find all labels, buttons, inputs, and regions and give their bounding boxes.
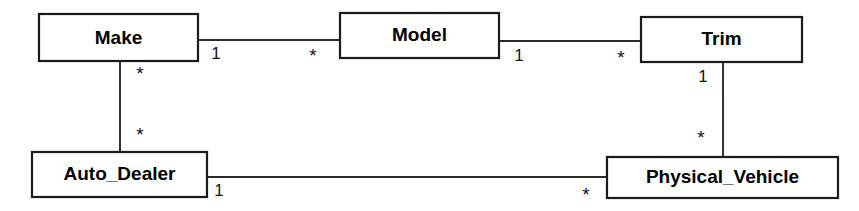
multiplicity-make-model-from: 1 [211,44,220,63]
multiplicity-model-trim-to: * [617,47,625,68]
multiplicity-auto-dealer-physical-vehicle-to: * [582,184,590,205]
entity-trim[interactable]: Trim [641,17,802,62]
multiplicity-trim-physical-vehicle-to: * [697,127,705,148]
multiplicity-make-auto-dealer-to: * [136,124,144,145]
uml-class-diagram: Make Model Trim Auto_Dealer Physical_Veh… [0,0,859,211]
entity-label-auto-dealer: Auto_Dealer [64,163,177,184]
multiplicity-trim-physical-vehicle-from: 1 [698,67,707,86]
entity-label-trim: Trim [701,28,741,49]
entity-physical-vehicle[interactable]: Physical_Vehicle [607,157,838,198]
multiplicity-model-trim-from: 1 [514,46,523,65]
entity-label-physical-vehicle: Physical_Vehicle [646,166,799,187]
entity-label-model: Model [392,24,447,45]
diagram-canvas: Make Model Trim Auto_Dealer Physical_Veh… [0,0,859,211]
multiplicity-auto-dealer-physical-vehicle-from: 1 [214,181,223,200]
entity-make[interactable]: Make [39,14,198,61]
multiplicity-make-auto-dealer-from: * [136,63,144,84]
multiplicity-make-model-to: * [309,45,317,66]
entity-label-make: Make [95,27,143,48]
entity-model[interactable]: Model [340,13,499,58]
entity-auto-dealer[interactable]: Auto_Dealer [32,152,207,197]
